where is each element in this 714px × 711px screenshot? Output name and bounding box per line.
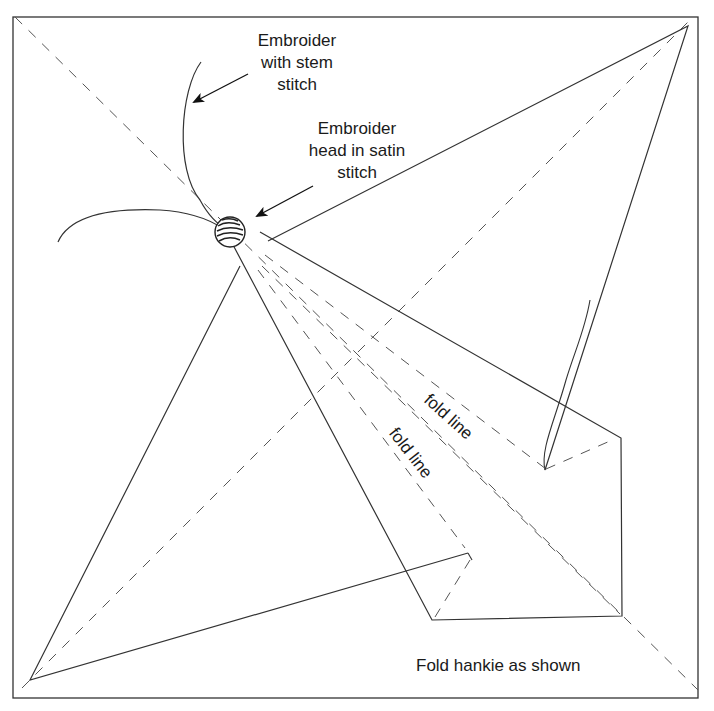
flower-head [215, 217, 245, 247]
stem-curve-left [58, 210, 222, 242]
fold-line-a-edge [546, 441, 610, 469]
diagram-drawing [0, 0, 714, 711]
upper-right-flap-curl [544, 300, 590, 470]
label-stem-stitch: Embroider with stem stitch [244, 30, 350, 96]
label-satin-stitch: Embroider head in satin stitch [290, 118, 424, 184]
fold-line-b [262, 266, 620, 614]
lower-left-flap-tip [468, 553, 472, 560]
hankie-folding-diagram: Embroider with stem stitch Embroider hea… [0, 0, 714, 711]
fold-line-c-edge [435, 560, 470, 617]
arrow-stem-stitch [194, 74, 248, 102]
arrow-satin-stitch [257, 186, 313, 216]
lower-left-flap [30, 266, 468, 680]
caption: Fold hankie as shown [416, 655, 580, 677]
